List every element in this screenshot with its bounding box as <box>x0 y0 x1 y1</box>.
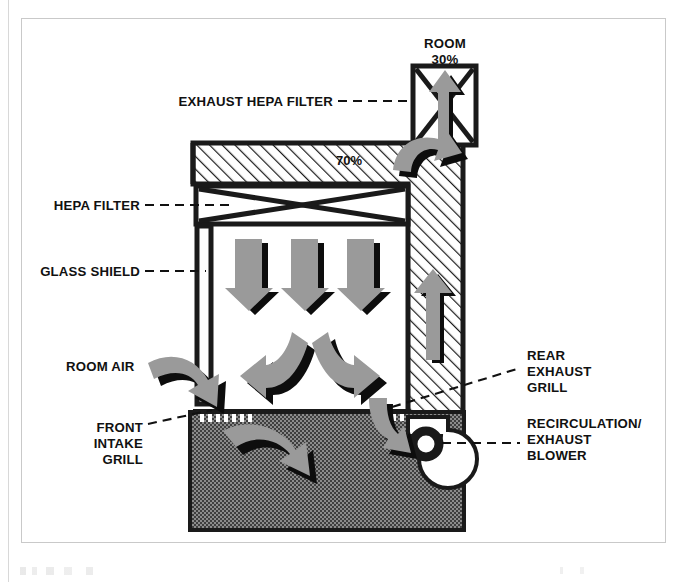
label-rear-exhaust-grill-line3: GRILL <box>527 380 568 395</box>
label-front-intake-grill-line1: FRONT <box>97 420 143 435</box>
split-arrow-right <box>312 332 387 405</box>
label-room-air: ROOM AIR <box>66 359 135 374</box>
label-blower-line2: EXHAUST <box>527 432 591 447</box>
label-rear-exhaust-grill-line2: EXHAUST <box>527 364 591 379</box>
downflow-arrow-1 <box>225 239 279 315</box>
label-room: ROOM <box>424 36 466 51</box>
label-front-intake-grill-line2: INTAKE <box>94 436 143 451</box>
label-plenum-percent: 70% <box>336 153 362 168</box>
label-blower-line1: RECIRCULATION/ <box>527 416 642 431</box>
label-glass-shield: GLASS SHIELD <box>40 264 140 279</box>
label-front-intake-grill-line3: GRILL <box>102 452 143 467</box>
label-exhaust-hepa-filter: EXHAUST HEPA FILTER <box>179 94 334 109</box>
room-air-inflow-arrow <box>148 357 226 414</box>
airflow-diagram: ROOM 30% EXHAUST HEPA FILTER 70% HEPA FI… <box>0 0 688 582</box>
label-room-percent: 30% <box>432 52 459 67</box>
downflow-arrow-2 <box>281 239 335 315</box>
label-hepa-filter: HEPA FILTER <box>54 198 140 213</box>
split-arrow-left <box>240 332 315 405</box>
figure-root: ROOM 30% EXHAUST HEPA FILTER 70% HEPA FI… <box>0 0 688 582</box>
label-rear-exhaust-grill-line1: REAR <box>527 348 565 363</box>
downflow-arrow-3 <box>337 239 391 315</box>
label-blower-line3: BLOWER <box>527 448 587 463</box>
